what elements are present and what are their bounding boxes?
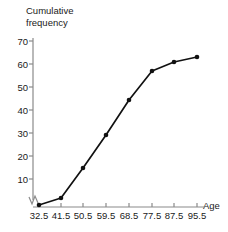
data-point-41-5 (59, 196, 64, 201)
data-point-68-5 (127, 98, 132, 103)
data-point-50-5 (81, 166, 86, 171)
data-point-markers (37, 55, 200, 208)
cumulative-frequency-chart: Cumulative frequency 70 60 50 40 30 20 1… (0, 0, 228, 232)
data-point-95-5 (195, 55, 200, 60)
data-point-87-5 (172, 60, 177, 65)
plot-area (0, 0, 228, 232)
ogive-line (39, 57, 197, 205)
data-point-77-5 (150, 69, 155, 74)
data-point-59-5 (104, 133, 109, 138)
data-point-32-5 (37, 203, 42, 208)
